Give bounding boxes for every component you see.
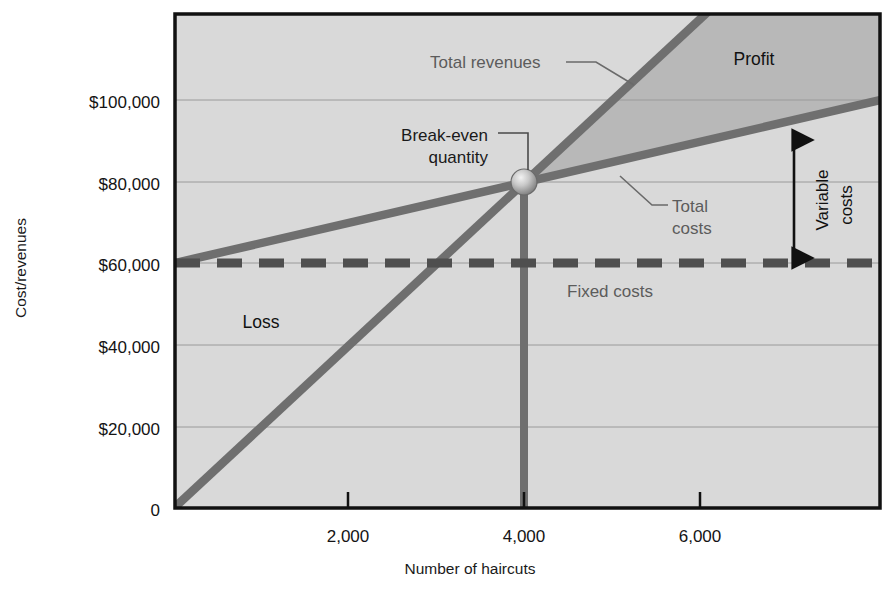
y-tick-label-0: 0 bbox=[151, 501, 160, 520]
annotation-total-revenues: Total revenues bbox=[430, 53, 541, 72]
annotation-fixed-costs: Fixed costs bbox=[567, 282, 653, 301]
annotation-break-even-line1: Break-even bbox=[401, 126, 488, 145]
y-tick-label-80000: $80,000 bbox=[99, 175, 160, 194]
annotation-total-costs-line1: Total bbox=[672, 197, 708, 216]
region-label-profit: Profit bbox=[734, 49, 775, 69]
x-axis-title: Number of haircuts bbox=[405, 560, 536, 577]
y-axis-title: Cost/revenues bbox=[12, 218, 29, 318]
annotation-total-costs-line2: costs bbox=[672, 219, 712, 238]
x-tick-label-6000: 6,000 bbox=[679, 527, 722, 546]
x-tick-label-2000: 2,000 bbox=[327, 527, 370, 546]
y-tick-label-20000: $20,000 bbox=[99, 420, 160, 439]
break-even-chart-figure: $100,000 $80,000 $60,000 $40,000 $20,000… bbox=[0, 0, 890, 593]
x-tick-label-4000: 4,000 bbox=[503, 527, 546, 546]
region-label-loss: Loss bbox=[243, 312, 280, 332]
annotation-break-even-line2: quantity bbox=[428, 148, 488, 167]
chart-svg: $100,000 $80,000 $60,000 $40,000 $20,000… bbox=[0, 0, 890, 593]
y-tick-label-60000: $60,000 bbox=[99, 256, 160, 275]
y-tick-label-100000: $100,000 bbox=[89, 93, 160, 112]
annotation-variable-costs-line1: Variable bbox=[813, 169, 832, 230]
y-tick-label-40000: $40,000 bbox=[99, 338, 160, 357]
annotation-variable-costs-line2: costs bbox=[837, 185, 856, 225]
break-even-point-marker bbox=[511, 169, 537, 195]
